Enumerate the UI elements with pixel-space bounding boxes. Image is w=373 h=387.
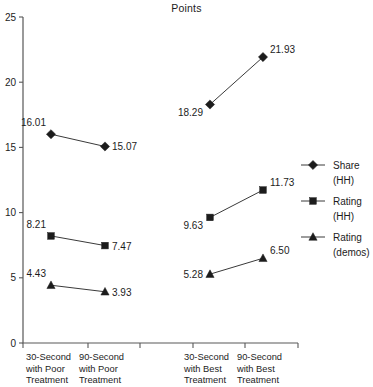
data-point-triangle	[259, 254, 267, 262]
points-line-chart: Points 0510152025 16.0115.0718.2921.938.…	[0, 0, 373, 387]
data-point-square	[207, 214, 214, 221]
x-axis-category-label: Treatment	[237, 375, 279, 385]
data-point-value-label: 15.07	[112, 141, 137, 152]
data-point-diamond	[308, 160, 317, 169]
x-axis-category-label: with Poor	[25, 364, 65, 374]
data-point-value-label: 4.43	[27, 268, 47, 279]
y-axis-tick-label: 5	[10, 272, 16, 283]
y-axis-tick-label: 15	[5, 142, 17, 153]
legend-item-label[interactable]: Share	[333, 160, 360, 171]
x-axis-category-label: with Poor	[78, 364, 118, 374]
y-axis-tick-label: 20	[5, 77, 17, 88]
data-point-value-label: 3.93	[112, 287, 132, 298]
chart-legend[interactable]: Share(HH)Rating(HH)Rating(demos)	[301, 160, 370, 258]
data-point-value-label: 7.47	[112, 241, 132, 252]
data-point-square	[102, 242, 109, 249]
chart-category-labels: 30-Secondwith PoorTreatment90-Secondwith…	[25, 352, 282, 385]
data-point-value-label: 18.29	[178, 107, 203, 118]
data-point-square	[48, 233, 55, 240]
legend-item-label[interactable]: Rating	[333, 232, 362, 243]
legend-item-label[interactable]: (HH)	[333, 211, 354, 222]
data-point-diamond	[100, 142, 109, 151]
x-axis-category-label: Treatment	[26, 375, 68, 385]
data-point-value-label: 21.93	[270, 44, 295, 55]
x-axis-category-label: with Best	[183, 364, 222, 374]
data-point-triangle	[47, 281, 55, 289]
y-axis-tick-label: 0	[10, 338, 16, 349]
x-axis-category-label: 90-Second	[79, 352, 124, 362]
y-axis-tick-label: 10	[5, 207, 17, 218]
data-point-value-label: 9.63	[184, 220, 204, 231]
data-point-diamond	[46, 130, 55, 139]
data-point-value-label: 6.50	[270, 245, 290, 256]
data-point-square	[260, 187, 267, 194]
data-point-value-label: 11.73	[270, 177, 295, 188]
legend-item-label[interactable]: (HH)	[333, 175, 354, 186]
x-axis-category-label: with Best	[236, 364, 275, 374]
x-axis-category-label: Treatment	[184, 375, 226, 385]
data-point-value-label: 5.28	[184, 269, 204, 280]
chart-plot-area: 0510152025 16.0115.0718.2921.938.217.479…	[0, 0, 373, 387]
chart-axes: 0510152025	[5, 12, 298, 349]
x-axis-category-label: 30-Second	[184, 352, 229, 362]
chart-point-labels: 16.0115.0718.2921.938.217.479.6311.734.4…	[21, 44, 295, 298]
y-axis-tick-label: 25	[5, 12, 17, 23]
x-axis-category-label: Treatment	[79, 375, 121, 385]
legend-item-label[interactable]: (demos)	[333, 247, 370, 258]
data-point-value-label: 8.21	[27, 219, 47, 230]
x-axis-category-label: 90-Second	[237, 352, 282, 362]
data-point-value-label: 16.01	[21, 117, 46, 128]
legend-item-label[interactable]: Rating	[333, 196, 362, 207]
data-point-square	[310, 198, 317, 205]
chart-series	[46, 52, 267, 295]
x-axis-category-label: 30-Second	[26, 352, 71, 362]
